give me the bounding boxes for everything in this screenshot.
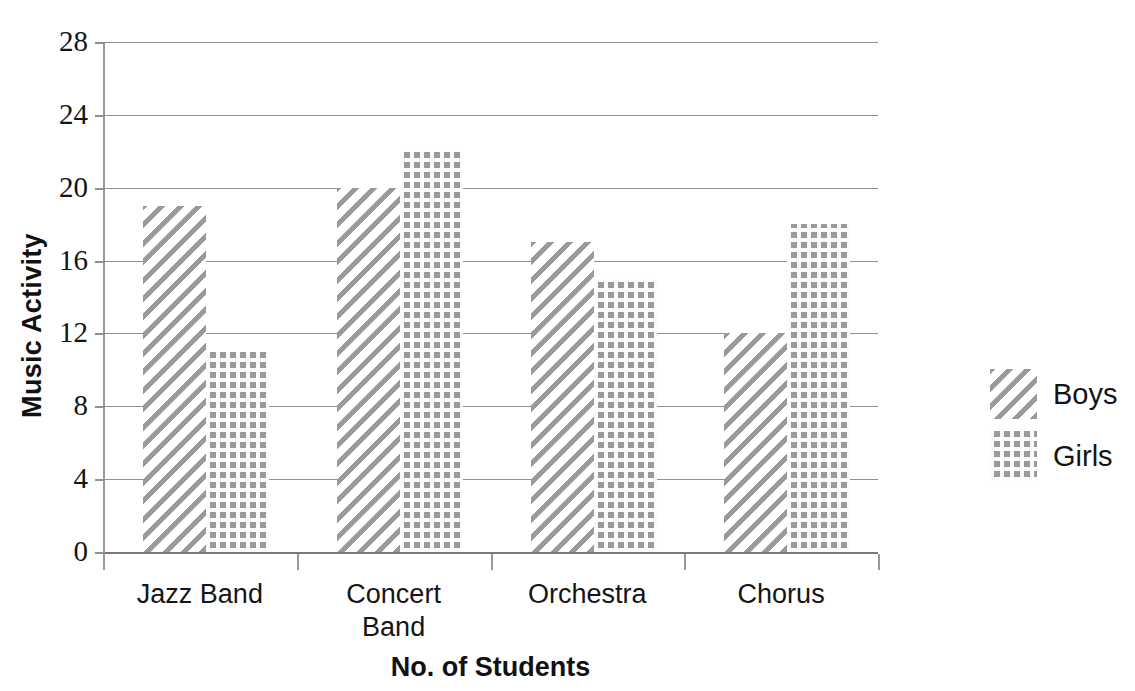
y-tick-mark-4 (95, 479, 105, 481)
y-tick-mark-8 (95, 406, 105, 408)
y-tick-mark-16 (95, 261, 105, 263)
x-category-label-3: Chorus (684, 578, 878, 611)
bar-boys-chorus (724, 333, 787, 552)
y-tick-label-20: 20 (42, 173, 88, 202)
bar-girls-concert-band (400, 151, 463, 552)
y-tick-label-28: 28 (42, 27, 88, 56)
x-axis-separator-0 (103, 554, 105, 570)
bar-boys-orchestra (531, 242, 594, 552)
legend-item-girls: Girls (990, 425, 1135, 487)
x-category-label-1: Concert Band (297, 578, 491, 644)
plot-area (103, 42, 878, 552)
y-tick-label-24: 24 (42, 100, 88, 129)
x-axis-separator-2 (491, 554, 493, 570)
bar-girls-jazz-band (206, 352, 269, 552)
y-tick-label-12: 12 (42, 318, 88, 347)
legend-label-girls: Girls (1053, 440, 1113, 473)
x-category-label-2: Orchestra (491, 578, 685, 611)
gridline-24 (103, 115, 878, 116)
diagonal-hatch-swatch (990, 369, 1037, 419)
bar-boys-concert-band (337, 188, 400, 552)
x-axis-separator-3 (684, 554, 686, 570)
x-axis-separator-4 (878, 554, 880, 570)
bar-girls-chorus (787, 224, 850, 552)
y-tick-mark-20 (95, 188, 105, 190)
bar-chart: Music Activity 2824201612840 Jazz BandCo… (0, 0, 1135, 691)
dotted-grid-swatch (990, 431, 1037, 481)
legend-item-boys: Boys (990, 363, 1135, 425)
chart-legend: BoysGirls (990, 363, 1135, 487)
gridline-28 (103, 42, 878, 43)
y-tick-label-8: 8 (42, 391, 88, 420)
bar-boys-jazz-band (143, 206, 206, 552)
y-tick-label-16: 16 (42, 246, 88, 275)
legend-label-boys: Boys (1053, 378, 1117, 411)
gridline-20 (103, 188, 878, 189)
y-tick-mark-0 (95, 552, 105, 554)
x-axis-title: No. of Students (103, 652, 878, 683)
bar-girls-orchestra (594, 279, 657, 552)
y-tick-label-4: 4 (42, 464, 88, 493)
gridline-16 (103, 261, 878, 262)
y-axis-tick-labels: 2824201612840 (0, 0, 88, 691)
y-tick-mark-28 (95, 42, 105, 44)
y-tick-mark-24 (95, 115, 105, 117)
y-tick-mark-12 (95, 333, 105, 335)
x-axis-separator-1 (297, 554, 299, 570)
y-tick-label-0: 0 (42, 537, 88, 566)
x-category-label-0: Jazz Band (103, 578, 297, 611)
